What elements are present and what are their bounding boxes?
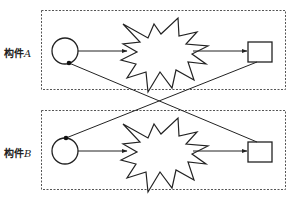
component-diagram (0, 0, 292, 200)
component-b-label-prefix: 构件 (4, 148, 24, 159)
component-b-label-var: B (24, 148, 31, 159)
component-a-label-var: A (24, 48, 31, 59)
component-b-label: 构件B (4, 145, 31, 160)
component-a (42, 11, 286, 93)
component-b-output-port-square (248, 142, 272, 162)
connection-dot-b-input (64, 136, 69, 141)
component-b-processing-star-icon (121, 118, 208, 192)
component-a-output-port-square (248, 42, 272, 62)
component-a-label: 构件A (4, 45, 31, 60)
component-a-processing-star-icon (121, 18, 208, 92)
component-b (42, 111, 286, 193)
connection-dot-a-input (67, 61, 72, 66)
component-b-input-port-circle (52, 138, 78, 164)
component-a-input-port-circle (52, 38, 78, 64)
component-a-label-prefix: 构件 (4, 48, 24, 59)
